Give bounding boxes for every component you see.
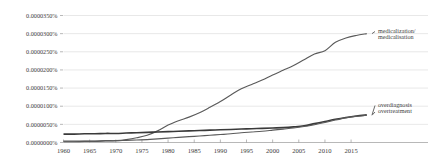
y-tick-label: 0.0000050% (26, 121, 57, 128)
y-tick-label: 0.0000350% (26, 12, 57, 19)
x-axis-tick-labels: 1960196519701975198019851990199520002005… (57, 147, 358, 154)
x-tick-label: 1965 (83, 147, 97, 154)
y-tick-label: 0.0000150% (26, 84, 57, 91)
x-tick-label: 1995 (240, 147, 254, 154)
y-tick-label: 0.0000300% (26, 30, 57, 37)
legend-leader-line (372, 32, 375, 34)
x-tick-label: 1970 (109, 147, 123, 154)
chart-canvas: 0.0000000%0.0000050%0.0000100%0.0000150%… (0, 0, 438, 167)
x-tick-label: 2015 (344, 147, 358, 154)
x-tick-label: 1960 (57, 147, 71, 154)
y-tick-label: 0.0000200% (26, 66, 57, 73)
series-label: overtreatment (378, 108, 412, 114)
x-tick-label: 1980 (161, 147, 175, 154)
x-tick-label: 2010 (318, 147, 332, 154)
gridlines (60, 16, 428, 143)
series-label: medicalisation (378, 34, 414, 40)
x-tick-label: 2005 (292, 147, 306, 154)
ngram-line-chart: 0.0000000%0.0000050%0.0000100%0.0000150%… (0, 0, 438, 167)
series-line (64, 34, 367, 142)
y-axis-tick-labels: 0.0000000%0.0000050%0.0000100%0.0000150%… (26, 12, 57, 146)
y-tick-label: 0.0000000% (26, 139, 57, 146)
series-labels: medicalization/medicalisationoverdiagnos… (372, 28, 416, 116)
x-tick-label: 1985 (188, 147, 202, 154)
series-line (64, 115, 367, 141)
y-tick-label: 0.0000100% (26, 102, 57, 109)
x-tick-label: 2000 (266, 147, 280, 154)
x-tick-label: 1975 (135, 147, 149, 154)
series-label: overdiagnosis (378, 102, 412, 108)
x-tick-label: 1990 (214, 147, 228, 154)
series-label: medicalization/ (378, 28, 416, 34)
data-series (64, 34, 367, 142)
y-tick-label: 0.0000250% (26, 48, 57, 55)
